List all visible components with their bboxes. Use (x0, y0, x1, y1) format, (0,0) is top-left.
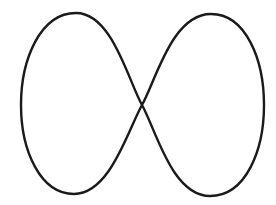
figure-eight-curve (21, 13, 264, 196)
figure-eight-diagram (0, 0, 276, 205)
figure-canvas (0, 0, 276, 205)
